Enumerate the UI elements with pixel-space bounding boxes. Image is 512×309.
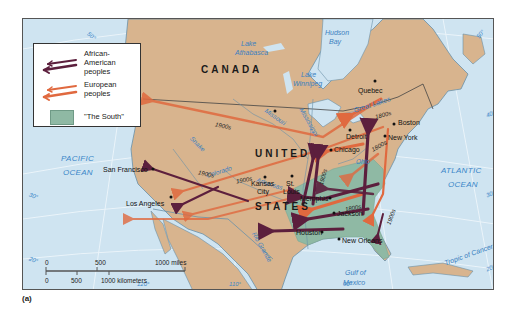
- legend-arrows: [40, 50, 90, 110]
- city-st: St.: [286, 180, 295, 187]
- migration-map: CANADA UNITED STATES PACIFIC OCEAN ATLAN…: [22, 18, 494, 290]
- scale-miles-0: 0: [45, 259, 49, 266]
- label-lake-winnipeg: Lake: [301, 71, 316, 78]
- scale-bar: 0 500 1000 miles 0 500 1000 kilometers: [37, 259, 187, 287]
- scale-miles-500: 500: [95, 259, 106, 266]
- coord-lon90: 90°: [343, 281, 352, 287]
- label-pacific-ocean: OCEAN: [63, 169, 93, 177]
- coord-lon110: 110°: [229, 281, 241, 287]
- city-quebec: Quebec: [358, 87, 383, 94]
- legend-south-label: "The South": [84, 112, 124, 121]
- label-pacific: PACIFIC: [61, 155, 94, 163]
- label-hudson: Hudson: [325, 29, 349, 36]
- legend-aa-line-3: peoples: [84, 67, 116, 76]
- city-chicago: Chicago: [334, 146, 360, 153]
- label-united: UNITED: [255, 149, 310, 159]
- label-states: STATES: [255, 202, 311, 212]
- legend-aa-line-2: American: [84, 58, 116, 67]
- city-detroit: Detroit: [346, 133, 367, 140]
- map-legend: African- American peoples European peopl…: [33, 43, 141, 127]
- city-kansas: Kansas: [251, 180, 274, 187]
- city-memphis: Memphis: [300, 195, 328, 202]
- scale-miles-1000: 1000 miles: [155, 259, 186, 266]
- label-atlantic: ATLANTIC: [441, 167, 481, 175]
- scale-line: [45, 267, 195, 277]
- city-houston: Houston: [296, 229, 322, 236]
- city-new-orleans: New Orleans: [342, 237, 382, 244]
- label-athabasca: Athabasca: [235, 49, 268, 56]
- city-st-louis: Louis: [283, 188, 300, 195]
- city-los-angeles: Los Angeles: [126, 200, 164, 207]
- legend-eu-label: European peoples: [84, 80, 117, 98]
- city-boston: Boston: [398, 119, 420, 126]
- scale-km-0: 0: [45, 277, 49, 284]
- city-new-york: New York: [388, 134, 418, 141]
- label-atlantic-ocean: OCEAN: [448, 181, 478, 189]
- label-hudson-bay: Bay: [329, 38, 341, 45]
- city-san-francisco: San Francisco: [103, 166, 148, 173]
- label-ohio: Ohio: [356, 159, 370, 166]
- legend-aa-label: African- American peoples: [84, 49, 116, 76]
- scale-km-500: 500: [71, 277, 82, 284]
- legend-south-swatch: [50, 110, 74, 125]
- city-kansas-city: City: [257, 188, 269, 195]
- legend-eu-line-2: peoples: [84, 89, 117, 98]
- legend-aa-line-1: African-: [84, 49, 116, 58]
- legend-eu-line-1: European: [84, 80, 117, 89]
- label-gulf: Gulf of: [345, 269, 366, 276]
- label-canada: CANADA: [201, 65, 262, 75]
- figure-caption: (a): [22, 294, 32, 303]
- scale-km-1000: 1000 kilometers: [101, 277, 147, 284]
- label-winnipeg: Winnipeg: [293, 80, 322, 87]
- label-lake-athabasca: Lake: [241, 40, 256, 47]
